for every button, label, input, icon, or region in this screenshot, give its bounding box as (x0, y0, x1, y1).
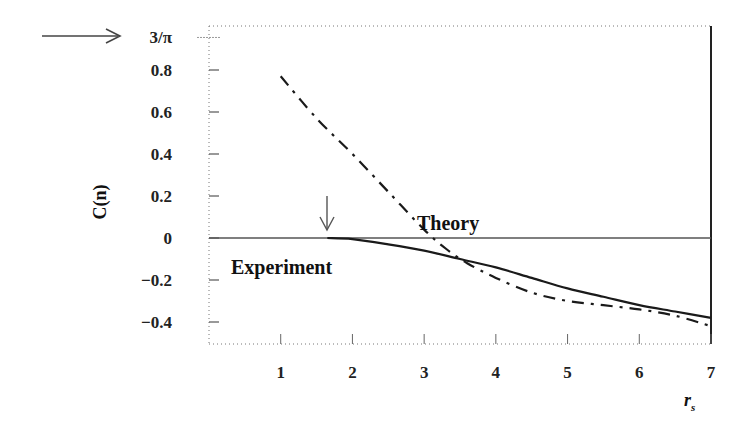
y-tick-label: 0.6 (151, 103, 172, 122)
y-tick-label: 0.8 (151, 61, 172, 80)
x-tick-labels: 1234567 (276, 363, 715, 382)
onset-arrow-icon (320, 196, 334, 230)
x-tick-label: 1 (276, 363, 285, 382)
y-tick-label: 0 (164, 229, 173, 248)
theory-annotation: Theory (417, 212, 479, 235)
x-tick-label: 7 (707, 363, 716, 382)
x-tick-label: 6 (635, 363, 644, 382)
y-tick-label: 0.2 (151, 187, 172, 206)
chart: C(n) 3/π0.80.60.40.20−0.2−0.4 1234567 Th… (0, 0, 740, 434)
y-axis-label: C(n) (90, 184, 111, 219)
y-tick-label: −0.2 (141, 271, 172, 290)
experiment-curve (327, 238, 711, 318)
y-tick-label: −0.4 (141, 313, 172, 332)
x-tick-label: 3 (420, 363, 429, 382)
experiment-annotation: Experiment (231, 256, 332, 279)
plot-series (281, 76, 711, 326)
y-tick-labels: 3/π0.80.60.40.20−0.2−0.4 (141, 28, 173, 332)
x-tick-label: 4 (492, 363, 501, 382)
x-tick-label: 5 (563, 363, 572, 382)
y-tick-label: 0.4 (151, 145, 173, 164)
x-tick-label: 2 (348, 363, 357, 382)
three-over-pi-arrow-icon (42, 29, 120, 43)
y-tick-label: 3/π (149, 28, 172, 47)
theory-curve (281, 76, 711, 326)
plot-axes (197, 26, 711, 344)
x-axis-label: rs (684, 390, 695, 413)
